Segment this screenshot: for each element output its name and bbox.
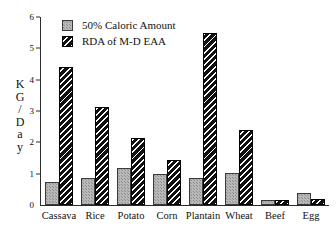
y-axis: 0123456 [0, 0, 40, 245]
bar-group [185, 17, 221, 205]
x-tick-label: Cassava [42, 210, 76, 221]
bar [275, 200, 289, 205]
bar [189, 178, 203, 205]
bar [59, 67, 73, 205]
x-tick-label: Beef [265, 210, 285, 221]
bar-group [257, 17, 293, 205]
bar [117, 168, 131, 205]
bar [297, 193, 311, 205]
bar [203, 33, 217, 205]
bar [131, 138, 145, 205]
legend-swatch-caloric-icon [62, 20, 73, 31]
y-tick-label: 3 [6, 107, 34, 116]
y-tick-label: 0 [6, 201, 34, 210]
x-tick-label: Potato [118, 210, 145, 221]
bar [167, 160, 181, 205]
legend-label-rda: RDA of M-D EAA [82, 36, 166, 47]
x-tick-label: Corn [157, 210, 178, 221]
bar-group [221, 17, 257, 205]
bar [45, 182, 59, 205]
x-tick-label: Wheat [225, 210, 252, 221]
x-tick-label: Rice [85, 210, 104, 221]
bar [311, 199, 325, 205]
x-axis-line [40, 205, 329, 206]
y-tick-label: 4 [6, 75, 34, 84]
legend-item-caloric: 50% Caloric Amount [62, 18, 176, 32]
y-tick-label: 2 [6, 138, 34, 147]
legend-swatch-rda-icon [62, 36, 73, 47]
x-tick-label: Egg [303, 210, 320, 221]
bar [239, 130, 253, 205]
y-tick-label: 1 [6, 169, 34, 178]
x-tick-label: Plantain [186, 210, 220, 221]
bar [225, 173, 239, 205]
legend-label-caloric: 50% Caloric Amount [82, 20, 176, 31]
bar [261, 200, 275, 205]
bar [81, 178, 95, 205]
chart-legend: 50% Caloric Amount RDA of M-D EAA [62, 18, 176, 50]
bar-chart: K G / D a y 0123456 CassavaRicePotatoCor… [0, 0, 336, 245]
bar-group [293, 17, 329, 205]
bar [153, 174, 167, 205]
bar [95, 107, 109, 205]
y-tick-label: 6 [6, 13, 34, 22]
x-axis-labels: CassavaRicePotatoCornPlantainWheatBeefEg… [41, 210, 329, 232]
y-tick-label: 5 [6, 44, 34, 53]
legend-item-rda: RDA of M-D EAA [62, 34, 176, 48]
